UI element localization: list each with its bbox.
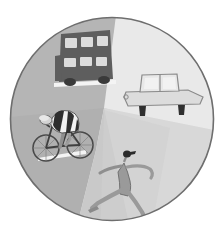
illustration-root: [0, 0, 224, 238]
bus-wheel-rear: [98, 76, 110, 84]
bus-window-lower-1: [64, 58, 76, 67]
bus-group: [54, 30, 116, 87]
bus-window-upper-1: [65, 38, 77, 48]
bus-wheel-front: [64, 78, 76, 86]
runner-foot-front: [141, 217, 152, 224]
car-wheel-front: [139, 106, 146, 116]
bus-window-lower-3: [96, 57, 107, 66]
car-body: [124, 90, 203, 106]
car-window-right: [163, 77, 176, 89]
bus-window-upper-3: [97, 36, 108, 46]
transport-circle-illustration: [0, 0, 224, 238]
car-window-left: [144, 78, 158, 90]
bus-nose: [55, 55, 62, 81]
cyclist-helmet: [39, 115, 49, 121]
runner-head: [123, 150, 131, 157]
bus-window-upper-2: [81, 37, 93, 47]
car-wheel-rear: [178, 105, 185, 115]
segment-group: [0, 0, 224, 238]
bus-window-lower-2: [80, 57, 92, 66]
center-shadow-wedge: [100, 110, 170, 238]
